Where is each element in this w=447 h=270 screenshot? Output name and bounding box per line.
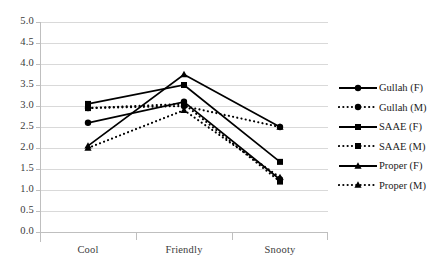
- x-axis-tick-label: Friendly: [136, 244, 232, 255]
- legend-square-icon: [338, 140, 378, 152]
- gridlines: [40, 23, 328, 233]
- legend-item: SAAE (F): [338, 117, 447, 137]
- legend-circle-icon: [338, 101, 378, 113]
- x-axis-tick-label: Cool: [40, 244, 136, 255]
- legend-label: SAAE (M): [378, 141, 425, 152]
- legend-triangle-icon: [338, 160, 378, 172]
- y-axis-tick-label: 0.5: [0, 204, 34, 215]
- y-axis-tick-label: 3.0: [0, 99, 34, 110]
- legend-marker: [355, 104, 361, 110]
- legend-marker: [355, 85, 361, 91]
- y-axis-tick-label: 3.5: [0, 78, 34, 89]
- legend-label: Proper (F): [378, 160, 422, 171]
- legend-marker: [355, 143, 361, 149]
- series-line: [88, 102, 280, 180]
- data-point: [180, 71, 187, 77]
- data-point: [181, 82, 187, 88]
- y-axis-tick-label: 4.0: [0, 57, 34, 68]
- x-axis-tick-label: Snooty: [232, 244, 328, 255]
- data-point: [85, 105, 91, 111]
- legend-item: Proper (M): [338, 176, 447, 196]
- y-axis-tick-label: 1.0: [0, 183, 34, 194]
- legend-label: Gullah (M): [378, 102, 427, 113]
- data-point: [277, 159, 283, 165]
- legend-label: Proper (M): [378, 180, 426, 191]
- axes: [36, 22, 328, 242]
- y-axis-tick-label: 2.0: [0, 141, 34, 152]
- y-axis-tick-label: 1.5: [0, 162, 34, 173]
- legend-square-icon: [338, 121, 378, 133]
- y-axis-tick-label: 2.5: [0, 120, 34, 131]
- line-chart: 5.04.54.03.53.02.52.01.51.00.50.0 CoolFr…: [0, 0, 447, 270]
- legend-triangle-icon: [338, 179, 378, 191]
- legend-label: SAAE (F): [378, 121, 422, 132]
- y-axis-tick-label: 0.0: [0, 225, 34, 236]
- legend-item: Gullah (F): [338, 78, 447, 98]
- series-saae-m: [85, 101, 283, 185]
- legend-item: SAAE (M): [338, 137, 447, 157]
- series-line: [88, 110, 280, 177]
- data-point: [85, 120, 91, 126]
- chart-legend: Gullah (F)Gullah (M)SAAE (F)SAAE (M)Prop…: [338, 78, 447, 195]
- series-saae-f: [85, 82, 283, 165]
- legend-label: Gullah (F): [378, 82, 423, 93]
- legend-item: Gullah (M): [338, 98, 447, 118]
- legend-circle-icon: [338, 82, 378, 94]
- legend-marker: [355, 124, 361, 130]
- data-point: [181, 101, 187, 107]
- y-axis-tick-label: 4.5: [0, 36, 34, 47]
- y-axis-tick-label: 5.0: [0, 15, 34, 26]
- legend-item: Proper (F): [338, 156, 447, 176]
